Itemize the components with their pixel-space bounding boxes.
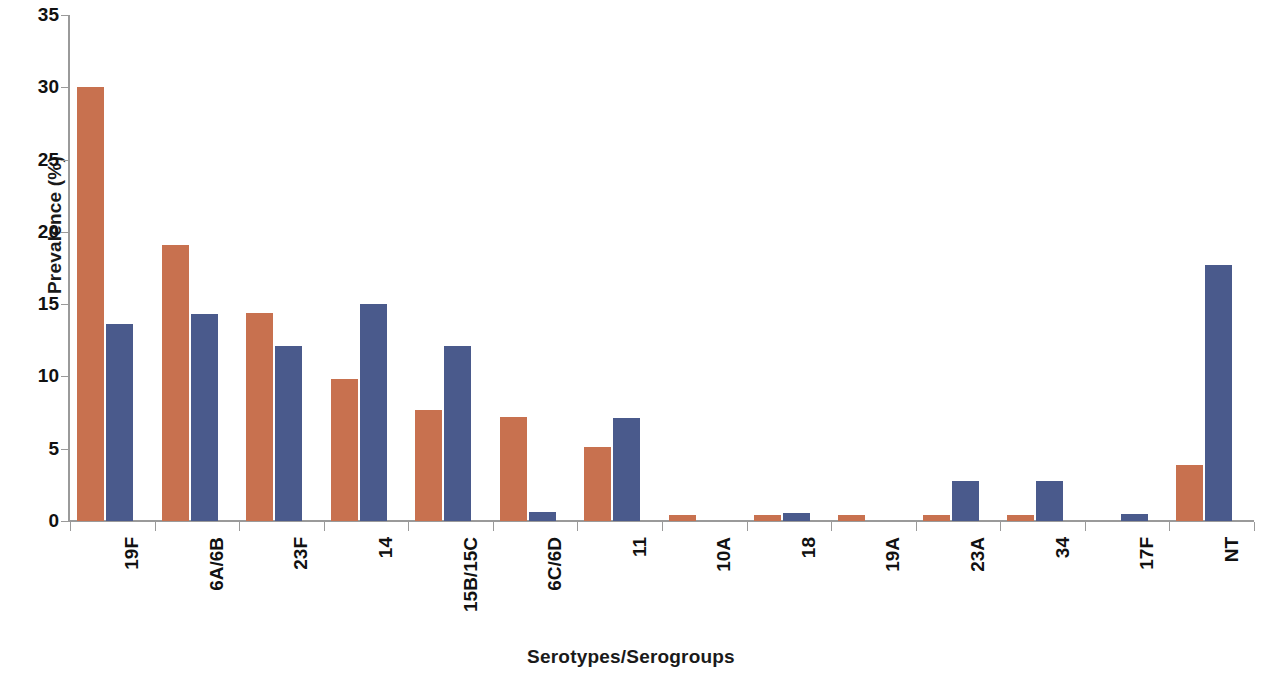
x-tick-label: 17F [1136, 537, 1158, 570]
bar-group [577, 15, 662, 521]
bar-series-b [529, 512, 556, 521]
y-tick-mark [61, 521, 69, 522]
x-tick-mark [1000, 522, 1001, 531]
bar-series-b [275, 346, 302, 521]
bar-series-a [1176, 465, 1203, 521]
bar-group [662, 15, 747, 521]
x-axis-title: Serotypes/Serogroups [0, 646, 1262, 668]
y-tick-label: 5 [13, 438, 59, 460]
x-tick-mark [1085, 522, 1086, 531]
bar-group [155, 15, 240, 521]
y-tick-mark [61, 304, 69, 305]
y-tick-mark [61, 87, 69, 88]
bar-series-b [106, 324, 133, 521]
bar-series-b [191, 314, 218, 521]
bar-series-a [162, 245, 189, 521]
x-tick-label: 23A [967, 537, 989, 572]
x-tick-mark [155, 522, 156, 531]
bar-group [916, 15, 1001, 521]
x-tick-label: 15B/15C [460, 537, 482, 612]
bar-group [70, 15, 155, 521]
x-tick-label: 19F [121, 537, 143, 570]
y-tick-label: 0 [13, 510, 59, 532]
bar-series-a [838, 515, 865, 521]
bar-series-a [584, 447, 611, 521]
y-tick-mark [61, 160, 69, 161]
x-tick-label: 23F [290, 537, 312, 570]
x-tick-mark [493, 522, 494, 531]
y-tick-label: 35 [13, 4, 59, 26]
x-tick-mark [1169, 522, 1170, 531]
y-tick-label: 15 [13, 293, 59, 315]
x-tick-label: 14 [375, 537, 397, 558]
x-tick-label: 10A [713, 537, 735, 572]
x-tick-label: 19A [882, 537, 904, 572]
bar-series-a [754, 515, 781, 521]
bar-group [408, 15, 493, 521]
bar-series-a [1007, 515, 1034, 521]
bar-series-b [360, 304, 387, 521]
bar-group [1085, 15, 1170, 521]
y-tick-mark [61, 232, 69, 233]
bar-group [831, 15, 916, 521]
x-tick-mark [408, 522, 409, 531]
x-tick-mark [239, 522, 240, 531]
x-tick-mark [577, 522, 578, 531]
x-tick-mark [831, 522, 832, 531]
x-tick-label: 34 [1052, 537, 1074, 558]
x-tick-label: 11 [629, 537, 651, 557]
bar-series-b [613, 418, 640, 521]
x-tick-label: 18 [798, 537, 820, 558]
y-tick-mark [61, 376, 69, 377]
bar-series-b [952, 481, 979, 521]
y-tick-label: 10 [13, 365, 59, 387]
plot-area [70, 15, 1254, 521]
bar-group [747, 15, 832, 521]
bar-series-a [669, 515, 696, 521]
y-tick-mark [61, 449, 69, 450]
bar-series-a [415, 410, 442, 521]
bar-series-b [783, 513, 810, 521]
x-tick-mark [324, 522, 325, 531]
x-tick-mark [747, 522, 748, 531]
bar-series-a [331, 379, 358, 521]
bar-series-b [1205, 265, 1232, 521]
y-tick-label: 20 [13, 221, 59, 243]
bar-series-a [923, 515, 950, 521]
y-tick-label: 30 [13, 76, 59, 98]
bar-group [324, 15, 409, 521]
x-tick-label: NT [1221, 537, 1243, 562]
x-tick-mark [916, 522, 917, 531]
x-tick-label: 6C/6D [544, 537, 566, 591]
bar-group [239, 15, 324, 521]
bar-series-a [500, 417, 527, 521]
bar-series-a [246, 313, 273, 521]
bar-chart: Prevalence (%) 05101520253035 19F6A/6B23… [0, 0, 1262, 677]
bar-series-b [1036, 481, 1063, 521]
y-tick-mark [61, 15, 69, 16]
x-tick-label: 6A/6B [206, 537, 228, 591]
bar-series-a [77, 87, 104, 521]
x-tick-mark [1254, 522, 1255, 531]
bar-series-b [444, 346, 471, 521]
bar-group [1169, 15, 1254, 521]
bar-group [1000, 15, 1085, 521]
bar-group [493, 15, 578, 521]
x-tick-mark [662, 522, 663, 531]
y-tick-label: 25 [13, 149, 59, 171]
bar-series-b [1121, 514, 1148, 521]
x-tick-mark [70, 522, 71, 531]
y-axis-ticks: 05101520253035 [0, 0, 59, 540]
